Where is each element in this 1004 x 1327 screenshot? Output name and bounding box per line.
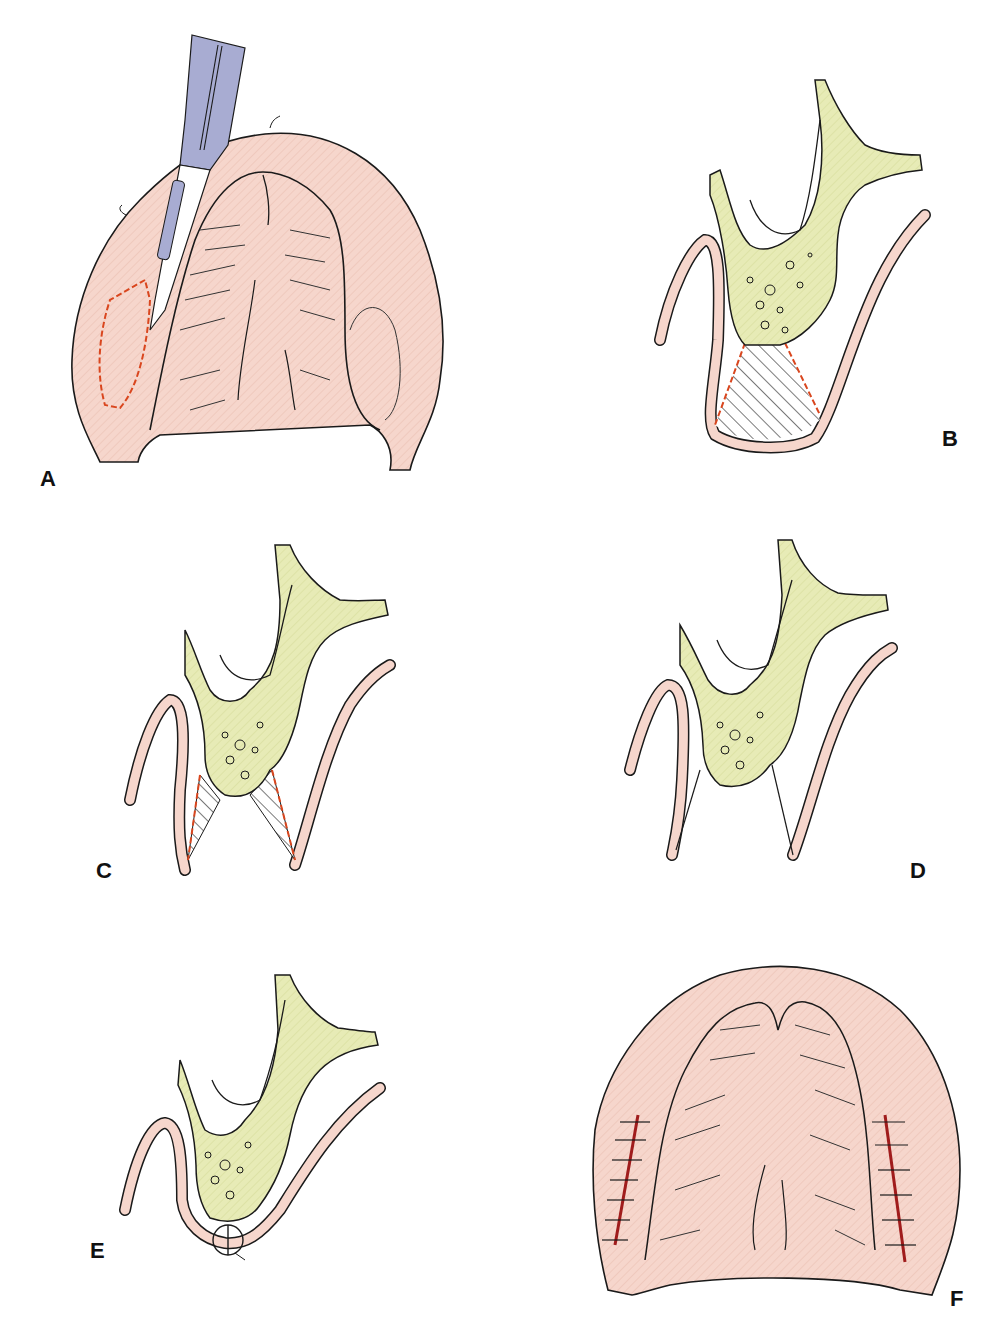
palate-sutured-illustration xyxy=(560,940,1004,1327)
panel-d: D xyxy=(600,530,940,890)
cross-section-sutured xyxy=(80,960,420,1300)
panel-label-a: A xyxy=(40,468,56,490)
palate-scalpel-illustration xyxy=(0,0,500,500)
panel-label-d: D xyxy=(910,860,926,882)
cross-section-two-wedges xyxy=(100,530,450,900)
panel-f: F xyxy=(560,940,1004,1327)
panel-c: C xyxy=(100,530,450,900)
cross-section-wedge-marked xyxy=(600,60,1004,460)
panel-a: A xyxy=(0,0,500,500)
panel-label-e: E xyxy=(90,1240,105,1262)
panel-label-f: F xyxy=(950,1288,963,1310)
panel-e: E xyxy=(80,960,420,1300)
panel-label-c: C xyxy=(96,860,112,882)
panel-label-b: B xyxy=(942,428,958,450)
cross-section-after-excision xyxy=(600,530,940,890)
panel-b: B xyxy=(600,60,1004,460)
